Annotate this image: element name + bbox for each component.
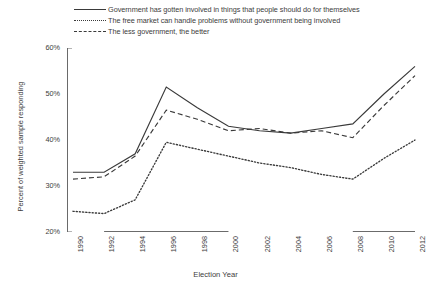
x-axis-tick-label: 1996 [169, 236, 178, 252]
plot-area [67, 48, 419, 232]
series-line-dotted [73, 140, 415, 214]
y-axis-tick-label: 60% [45, 44, 60, 52]
x-axis-tick-label: 2008 [356, 236, 365, 252]
legend-key-dotted-line-icon [72, 15, 108, 26]
x-axis-tick-labels: 1990199219941996199820002002200420062008… [0, 236, 431, 270]
x-axis-tick-label: 1990 [76, 236, 85, 252]
chart-legend: Government has gotten involved in things… [72, 4, 422, 37]
legend-label-free-market: The free market can handle problems with… [108, 15, 340, 26]
series-line-solid [73, 66, 415, 172]
legend-label-less-government: The less government, the better [108, 26, 209, 37]
x-axis-tick-label: 1994 [138, 236, 147, 252]
x-axis-tick-label: 2006 [325, 236, 334, 252]
x-axis-tick-label: 2010 [387, 236, 396, 252]
chart-figure: Government has gotten involved in things… [0, 0, 431, 293]
plot-svg [67, 48, 419, 232]
y-axis-title: Percent of weighted sample responding [16, 57, 25, 237]
legend-item-free-market: The free market can handle problems with… [72, 15, 422, 26]
y-axis-tick-label: 50% [45, 90, 60, 98]
x-axis-tick-label: 1992 [107, 236, 116, 252]
x-axis-tick-label: 2012 [418, 236, 427, 252]
x-axis-tick-label: 2000 [231, 236, 240, 252]
y-axis-tick-label: 40% [45, 136, 60, 144]
legend-item-government-involved: Government has gotten involved in things… [72, 4, 422, 15]
series-line-dashed [73, 76, 415, 180]
x-axis-tick-label: 1998 [200, 236, 209, 252]
legend-label-government-involved: Government has gotten involved in things… [108, 4, 360, 15]
legend-key-solid-line-icon [72, 4, 108, 15]
y-axis-tick-label: 20% [45, 228, 60, 236]
legend-key-dashed-line-icon [72, 26, 108, 37]
legend-item-less-government: The less government, the better [72, 26, 422, 37]
x-axis-tick-label: 2002 [263, 236, 272, 252]
y-axis-tick-label: 30% [45, 182, 60, 190]
x-axis-title: Election Year [0, 270, 431, 279]
y-axis-tick-labels: 20%30%40%50%60% [26, 48, 60, 232]
x-axis-tick-label: 2004 [294, 236, 303, 252]
